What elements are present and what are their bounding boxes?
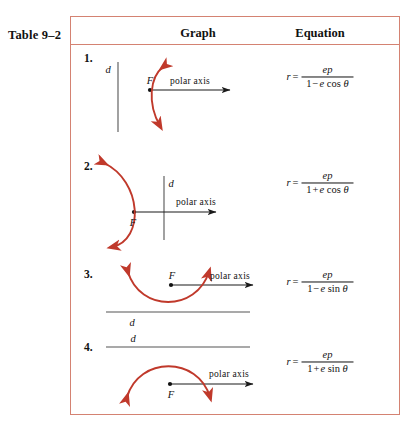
row-1-eq-variable: r [286, 72, 290, 83]
row-2-eq-den-function: cos [327, 185, 341, 196]
row-1-eq-den-coefficient: e [320, 79, 325, 90]
row-3-eq-denominator: 1−e sin θ [304, 283, 351, 295]
row-2-eq-variable: r [286, 178, 290, 189]
row-2-eq-den-angle: θ [343, 185, 348, 196]
row-1-eq-numerator: ep [319, 64, 337, 76]
row-3-directrix-label: d [129, 317, 134, 328]
row-1-focus-label: F [147, 75, 153, 86]
row-4-eq-equals: = [293, 357, 299, 368]
row-1-eq-denominator: 1−e cos θ [303, 78, 351, 90]
row-4-eq-den-angle: θ [343, 364, 348, 375]
row-4-eq-den-function: sin [328, 364, 340, 375]
row-2-eq-den-operator: + [312, 185, 320, 196]
row-1-eq-equals: = [293, 72, 299, 83]
row-number-2: 2. [84, 160, 93, 172]
row-4-directrix-label: d [130, 333, 135, 344]
row-4-axis-label: polar axis [209, 369, 249, 379]
row-4-eq-denominator: 1+e sin θ [304, 363, 351, 375]
row-2-eq-equals: = [293, 178, 299, 189]
row-3-eq-den-angle: θ [343, 284, 348, 295]
row-2-eq-numerator: ep [319, 170, 337, 182]
row-number-4: 4. [84, 341, 93, 353]
row-1-eq-den-operator: − [312, 79, 320, 90]
row-3-eq-equals: = [293, 277, 299, 288]
row-4-equation: r = ep 1+e sin θ [286, 349, 353, 374]
table-caption: Table 9–2 [8, 28, 61, 43]
row-4-focus-label: F [168, 389, 174, 400]
row-3-eq-variable: r [286, 277, 290, 288]
row-4-eq-variable: r [286, 357, 290, 368]
row-3-focus-label: F [169, 270, 175, 281]
row-4-eq-den-operator: + [312, 364, 320, 375]
row-4-eq-fraction: ep 1+e sin θ [302, 349, 354, 374]
row-3-equation: r = ep 1−e sin θ [286, 269, 353, 294]
header-divider [70, 44, 400, 45]
row-3-eq-fraction: ep 1−e sin θ [302, 269, 354, 294]
row-1-eq-fraction: ep 1−e cos θ [302, 64, 354, 89]
row-3-axis-label: polar axis [210, 271, 250, 281]
row-number-1: 1. [84, 52, 93, 64]
row-number-3: 3. [84, 268, 93, 280]
row-2-eq-den-coefficient: e [320, 185, 325, 196]
column-header-graph: Graph [180, 26, 215, 41]
row-3-eq-den-operator: − [312, 284, 320, 295]
row-2-focus-label: F [130, 217, 136, 228]
row-3-eq-den-coefficient: e [320, 284, 325, 295]
table-figure: Table 9–2 Graph Equation [0, 0, 420, 430]
row-1-eq-den-function: cos [327, 79, 341, 90]
row-4-eq-den-coefficient: e [320, 364, 325, 375]
row-1-equation: r = ep 1−e cos θ [286, 64, 353, 89]
row-3-eq-den-function: sin [328, 284, 340, 295]
row-4-eq-numerator: ep [319, 349, 337, 361]
row-2-eq-denominator: 1+e cos θ [303, 184, 351, 196]
row-2-directrix-label: d [168, 178, 173, 189]
row-3-eq-numerator: ep [319, 269, 337, 281]
row-1-eq-den-angle: θ [343, 79, 348, 90]
row-2-axis-label: polar axis [176, 197, 216, 207]
row-2-equation: r = ep 1+e cos θ [286, 170, 353, 195]
column-header-equation: Equation [295, 26, 344, 41]
row-2-eq-fraction: ep 1+e cos θ [302, 170, 354, 195]
row-1-directrix-label: d [105, 64, 110, 75]
row-1-axis-label: polar axis [170, 76, 210, 86]
